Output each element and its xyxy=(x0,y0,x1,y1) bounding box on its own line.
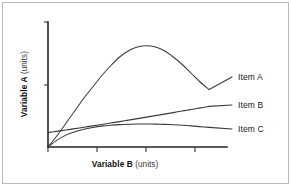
y-axis-title-bold: Variable A xyxy=(19,76,29,117)
legend-label-item-a: Item A xyxy=(238,73,263,82)
x-axis-title-bold: Variable B xyxy=(92,159,133,169)
legend-leader-item-b xyxy=(209,105,232,106)
y-axis-title: Variable A (units) xyxy=(20,24,28,144)
legend-leader-item-a xyxy=(209,77,232,90)
legend-leader-item-c xyxy=(209,127,232,129)
chart-figure: Variable B (units) Variable A (units) It… xyxy=(0,0,293,188)
x-axis-title-units: (units) xyxy=(135,159,158,169)
series-curve-item-c xyxy=(48,124,209,147)
legend-label-item-b: Item B xyxy=(238,101,263,110)
series-curve-item-a xyxy=(48,46,209,147)
legend-label-item-c: Item C xyxy=(238,125,264,134)
series-curve-item-b xyxy=(48,106,209,132)
x-axis-title: Variable B (units) xyxy=(0,160,250,168)
y-axis-title-units: (units) xyxy=(19,51,29,74)
